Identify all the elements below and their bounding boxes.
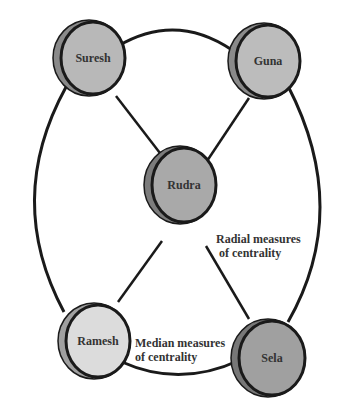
annotation-radial: Radial measures of centrality bbox=[216, 232, 301, 260]
edge-ramesh-rudra bbox=[118, 241, 162, 302]
node-label-rudra: Rudra bbox=[167, 178, 200, 192]
node-rudra: Rudra bbox=[144, 146, 216, 224]
annotation-median-line2: of centrality bbox=[135, 350, 197, 364]
node-label-sela: Sela bbox=[261, 351, 282, 365]
annotation-median: Median measures of centrality bbox=[135, 336, 225, 364]
centrality-network-diagram: Suresh Guna Rudra Ramesh Sela Radial mea… bbox=[0, 0, 342, 405]
annotation-radial-line1: Radial measures bbox=[216, 232, 301, 246]
edge-suresh-guna bbox=[118, 30, 232, 50]
node-ramesh: Ramesh bbox=[58, 303, 130, 379]
node-guna: Guna bbox=[228, 23, 300, 99]
node-sela: Sela bbox=[231, 319, 305, 397]
edge-guna-rudra bbox=[205, 98, 249, 164]
edge-ramesh-suresh bbox=[34, 87, 66, 312]
annotation-median-line1: Median measures bbox=[135, 336, 225, 350]
node-label-ramesh: Ramesh bbox=[77, 334, 119, 348]
edge-guna-sela bbox=[288, 86, 320, 322]
edge-suresh-rudra bbox=[116, 96, 163, 157]
node-suresh: Suresh bbox=[53, 20, 125, 96]
annotation-radial-line2: of centrality bbox=[219, 246, 281, 260]
node-label-suresh: Suresh bbox=[75, 51, 110, 65]
node-label-guna: Guna bbox=[254, 54, 283, 68]
